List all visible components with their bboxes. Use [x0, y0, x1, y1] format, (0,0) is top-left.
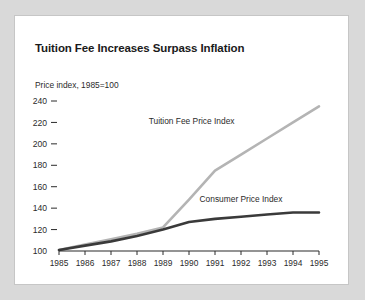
x-tick-label: 1988: [128, 258, 147, 268]
x-tick-label: 1986: [76, 258, 95, 268]
x-tick-label: 1993: [258, 258, 277, 268]
x-tick-label: 1989: [154, 258, 173, 268]
y-tick-label: 100: [33, 246, 48, 256]
x-tick-label: 1991: [206, 258, 225, 268]
series-line: [59, 212, 319, 250]
y-tick-label: 220: [33, 118, 48, 128]
y-tick-label: 200: [33, 139, 48, 149]
x-tick-label: 1985: [50, 258, 69, 268]
y-tick-label: 140: [33, 203, 48, 213]
series-line: [59, 106, 319, 250]
series-label: Tuition Fee Price Index: [149, 116, 236, 126]
x-tick-label: 1994: [284, 258, 303, 268]
x-tick-label: 1992: [232, 258, 251, 268]
y-tick-label: 120: [33, 225, 48, 235]
x-tick-label: 1987: [102, 258, 121, 268]
line-chart-plot: 240220200180160140120100 198519861987198…: [15, 16, 350, 286]
y-tick-label: 160: [33, 182, 48, 192]
series-lines: [59, 106, 319, 250]
series-labels: Tuition Fee Price IndexConsumer Price In…: [149, 116, 284, 204]
y-tick-label: 180: [33, 160, 48, 170]
x-tick-label: 1995: [310, 258, 329, 268]
chart-card: Tuition Fee Increases Surpass Inflation …: [14, 15, 349, 285]
x-tick-label: 1990: [180, 258, 199, 268]
y-axis-ticks: 240220200180160140120100: [33, 96, 57, 256]
series-label: Consumer Price Index: [200, 194, 284, 204]
x-axis-ticks: 1985198619871988198919901991199219931994…: [50, 251, 329, 268]
y-tick-label: 240: [33, 96, 48, 106]
